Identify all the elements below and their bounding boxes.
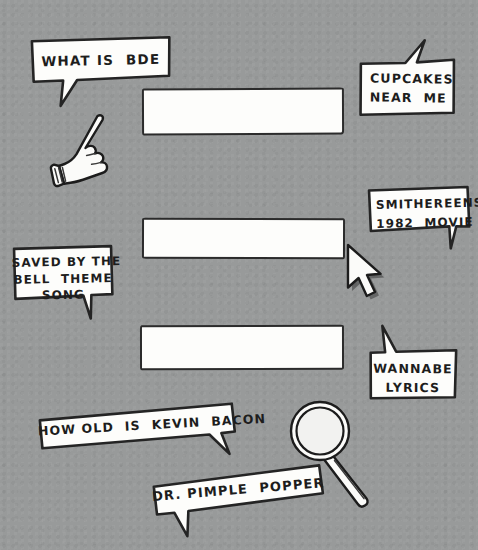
magnifying-glass-icon — [288, 398, 388, 510]
speech-bubble-smithereens-1982-movie[interactable]: SMITHEREENS 1982 MOVIE — [366, 185, 471, 239]
illustration-canvas: WHAT IS BDE CUPCAKES NEAR ME SMITHEREENS… — [0, 0, 478, 550]
search-bar-middle[interactable] — [142, 218, 345, 260]
speech-bubble-cupcakes-near-me[interactable]: CUPCAKES NEAR ME — [358, 55, 457, 119]
speech-bubble-what-is-bde[interactable]: WHAT IS BDE — [29, 35, 172, 110]
speech-bubble-wannabe-lyrics[interactable]: WANNABE LYRICS — [368, 348, 458, 401]
search-bar-bottom[interactable] — [140, 325, 344, 370]
speech-bubble-how-old-is-kevin-bacon[interactable]: HOW OLD IS KEVIN BACON — [37, 402, 237, 457]
arrow-cursor-icon — [345, 242, 393, 304]
pointing-hand-cursor-icon — [52, 112, 114, 194]
speech-bubble-saved-by-the-bell-theme-song[interactable]: SAVED BY THE BELL THEME SONG — [12, 244, 115, 304]
